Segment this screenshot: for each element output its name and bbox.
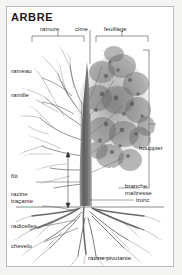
label-racine-tracante-line2: traçante	[11, 197, 33, 204]
label-tronc: tronc	[136, 196, 150, 203]
figure-root: ARBRE	[0, 0, 182, 275]
label-fut: fût	[11, 172, 18, 179]
fut-measure	[66, 152, 70, 208]
label-ramille: ramille	[11, 91, 29, 98]
label-rameau: rameau	[11, 67, 32, 74]
label-feuillage: feuillage	[104, 25, 127, 32]
label-radicelles: radicelles	[11, 222, 37, 229]
label-racine-tracante-line1: racine	[11, 190, 28, 197]
label-branche-maitresse-line1: branche	[125, 182, 147, 189]
label-racine-pivotante: racine pivotante	[88, 254, 131, 261]
label-cime: cime	[75, 25, 88, 32]
label-branche-maitresse-line2: maîtresse	[125, 189, 152, 196]
label-houppier: houppier	[139, 144, 163, 151]
label-ramure: ramure	[40, 25, 59, 32]
label-chevelu: chevelu	[11, 242, 32, 249]
